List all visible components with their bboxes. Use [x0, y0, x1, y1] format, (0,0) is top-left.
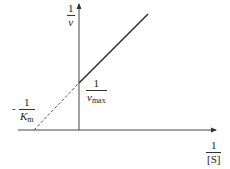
x-intercept-label: 1 Km	[19, 97, 35, 125]
y-intercept-numerator: 1	[93, 78, 101, 89]
x-axis-label-denominator: [S]	[206, 154, 221, 165]
y-axis-label-numerator: 1	[67, 3, 75, 14]
y-intercept-denominator: vmax	[86, 92, 107, 106]
plot-canvas	[0, 0, 230, 169]
y-intercept-label: 1 vmax	[86, 78, 107, 106]
y-axis-label: 1 v	[67, 3, 75, 28]
x-intercept-numerator: 1	[23, 97, 31, 108]
y-axis-label-denominator: v	[67, 17, 74, 28]
x-intercept-sign: -	[12, 102, 16, 114]
x-axis-label-numerator: 1	[210, 140, 218, 151]
x-axis-label: 1 [S]	[206, 140, 221, 165]
solid-data-line	[79, 14, 148, 83]
x-intercept-denominator: Km	[19, 111, 35, 125]
dashed-extrapolation-line	[34, 83, 79, 130]
